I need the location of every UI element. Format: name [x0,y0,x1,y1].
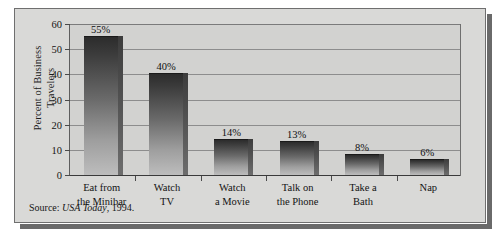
y-axis-tick [65,150,70,151]
bar-side-face [183,73,188,175]
x-axis-category-label-line: the Phone [265,195,330,209]
bar-value-label: 14% [214,127,248,138]
source-prefix: Source: [29,202,62,213]
bar-side-face [248,139,253,175]
bar-value-label: 40% [149,61,183,72]
gridline [70,150,460,151]
bar-value-label: 13% [280,129,314,140]
y-axis-tick-label: 60 [52,19,63,30]
x-axis-category-label-line: Watch [200,181,265,195]
y-axis-tick-label: 40 [52,69,63,80]
x-axis-category-label: Nap [396,181,461,195]
y-axis-title-line-2: Travelers [44,18,57,158]
x-axis-category-label: WatchTV [134,181,199,208]
gridline [70,125,460,126]
x-axis-category-label: Talk onthe Phone [265,181,330,208]
x-axis-category-label: Watcha Movie [200,181,265,208]
x-axis-category-label-line: TV [134,195,199,209]
y-axis-title: Percent of Business Travelers [31,18,61,158]
plot-area: 010203040506055%40%14%13%8%6% [69,24,461,176]
bar-side-face [118,36,123,175]
bar: 6% [410,159,444,175]
x-axis-category-label-line: a Movie [200,195,265,209]
y-axis-tick-label: 50 [52,44,63,55]
bar-value-label: 8% [345,142,379,153]
x-axis-category-label-line: Watch [134,181,199,195]
source-note: Source: USA Today, 1994. [29,202,134,213]
gridline [70,49,460,50]
bar-side-face [314,141,319,175]
x-axis-line [70,175,460,176]
x-axis-category-label-line: Bath [330,195,395,209]
bar-value-label: 6% [410,147,444,158]
bar: 55% [84,36,118,175]
chart-figure: Percent of Business Travelers 0102030405… [0,0,504,245]
x-axis-category-label-line: Take a [330,181,395,195]
x-axis-category-label-line: Nap [396,181,461,195]
y-axis-title-line-1: Percent of Business [31,18,44,158]
bar: 8% [345,154,379,175]
y-axis-tick [65,125,70,126]
bar: 14% [214,139,248,175]
y-axis-tick [65,74,70,75]
bar: 40% [149,73,183,175]
x-axis-category-label-line: Eat from [69,181,134,195]
y-axis-tick [65,49,70,50]
y-axis-tick-label: 30 [52,94,63,105]
bar-value-label: 55% [84,24,118,35]
card-shadow-bottom [20,224,492,229]
x-axis-category-label: Take aBath [330,181,395,208]
bar: 13% [280,141,314,175]
y-axis-tick [65,175,70,176]
y-axis-tick-label: 10 [52,144,63,155]
bar-side-face [444,159,449,175]
chart-card: Percent of Business Travelers 0102030405… [14,8,486,223]
gridline [70,100,460,101]
plot-top-border [70,24,460,25]
card-shadow-right [487,14,492,229]
source-publication: USA Today [62,202,107,213]
y-axis-tick [65,100,70,101]
y-axis-tick-label: 20 [52,119,63,130]
x-axis-category-label-line: Talk on [265,181,330,195]
y-axis-tick-label: 0 [57,170,62,181]
gridline [70,74,460,75]
bar-side-face [379,154,384,175]
source-suffix: , 1994. [107,202,135,213]
